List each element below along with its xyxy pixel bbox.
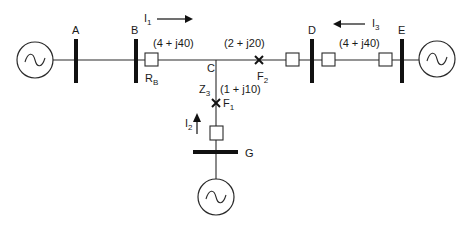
bus-a-label: A [72,24,80,36]
current-i3-label: I3 [372,17,380,32]
fault-f1-label: F1 [223,97,235,112]
impedance-c-g: (1 + j10) [220,83,261,95]
impedance-c-d: (2 + j20) [224,37,265,49]
impedance-z3-label: Z3 [199,83,211,98]
current-i1-label: I1 [144,12,152,27]
breaker-g [210,126,223,140]
bus-c-label: C [207,62,215,74]
bus-b-label: B [131,24,138,36]
arrow-right-icon [185,15,193,23]
current-i2-label: I2 [185,117,193,132]
bus-g-bar [193,150,238,154]
bus-d-bar [310,39,314,83]
breaker-e [379,53,392,66]
bus-e-label: E [398,24,405,36]
bus-d-label: D [308,24,316,36]
generator-e [419,41,455,77]
impedance-d-e: (4 + j40) [339,37,380,49]
breaker-d-right [322,53,335,66]
breaker-d-left [286,53,299,66]
power-system-diagram: A B RB I1 (4 + j40) C (2 + j20) F2 D I3 … [0,0,468,226]
relay-rb-label: RB [145,72,158,87]
generator-a [17,42,53,78]
generator-g [198,179,234,215]
impedance-b-c: (4 + j40) [153,37,194,49]
breaker-rb [145,53,158,66]
arrow-left-icon [333,20,341,28]
bus-b-bar [134,39,138,83]
bus-e-bar [400,39,404,83]
bus-g-label: G [245,147,254,159]
arrow-up-icon [193,113,201,122]
bus-a-bar [74,39,78,83]
